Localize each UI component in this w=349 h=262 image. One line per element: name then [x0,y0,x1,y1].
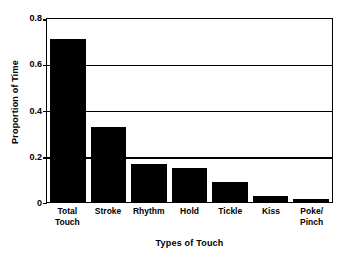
x-tick-label: Tickle [210,206,251,227]
y-tick-label: 0.6 [29,60,42,69]
x-axis-title: Types of Touch [46,238,333,248]
y-tick-mark [43,203,47,205]
y-axis-tick-labels: 00.20.40.60.8 [18,18,44,203]
y-tick-label: 0.8 [29,14,42,23]
bar-slot [129,19,169,202]
bar-series [47,19,332,202]
x-tick-label: Kiss [251,206,292,227]
bar[interactable] [293,199,329,202]
bar-slot [88,19,128,202]
bar-slot [169,19,209,202]
x-tick-label: Poke/ Pinch [291,206,332,227]
bar[interactable] [91,127,127,202]
bar[interactable] [253,196,289,202]
x-axis-tick-labels: Total TouchStrokeRhythmHoldTickleKissPok… [46,206,333,227]
bar-slot [291,19,331,202]
bar-chart: Proportion of Time 00.20.40.60.8 Total T… [0,0,349,262]
x-tick-label: Total Touch [47,206,88,227]
x-tick-label: Rhythm [128,206,169,227]
x-tick-label: Stroke [88,206,129,227]
y-tick-label: 0.4 [29,106,42,115]
y-tick-label: 0 [37,199,42,208]
bar-slot [210,19,250,202]
bar[interactable] [131,164,167,202]
bar[interactable] [50,39,86,202]
x-tick-label: Hold [169,206,210,227]
bar[interactable] [212,182,248,202]
y-tick-label: 0.2 [29,152,42,161]
bar[interactable] [172,168,208,202]
plot-area [46,18,333,203]
bar-slot [48,19,88,202]
bar-slot [250,19,290,202]
